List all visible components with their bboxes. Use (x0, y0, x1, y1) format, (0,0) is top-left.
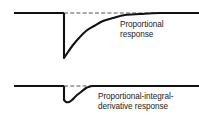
pid-label-line-1: Proportional-integral- (98, 92, 173, 102)
pid-label-line-2: derivative response (98, 102, 173, 112)
proportional-label-line-2: response (120, 30, 164, 40)
proportional-response-label: Proportional response (120, 20, 164, 39)
proportional-label-line-1: Proportional (120, 20, 164, 30)
proportional-response-plot (14, 13, 199, 58)
pid-response-label: Proportional-integral- derivative respon… (98, 92, 173, 111)
control-response-figure: Proportional response Proportional-integ… (0, 0, 199, 119)
